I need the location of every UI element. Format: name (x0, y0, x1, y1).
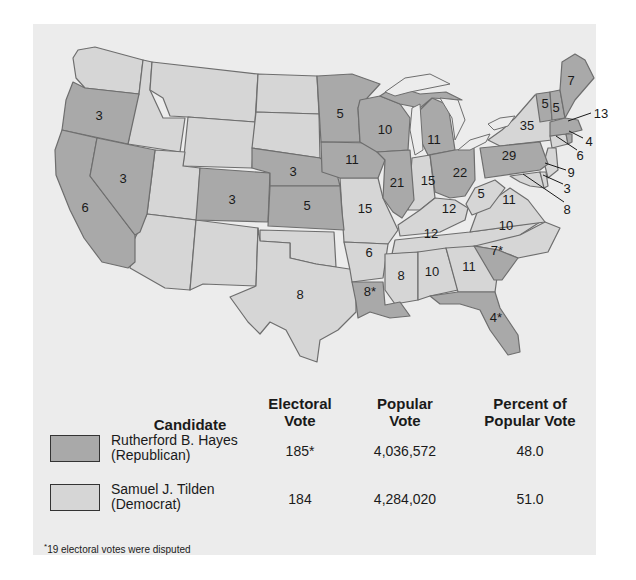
label-new-jersey: 9 (567, 165, 574, 180)
label-south-carolina: 7* (491, 243, 503, 258)
label-maryland: 8 (563, 202, 570, 217)
label-rhode-island: 4 (585, 134, 592, 149)
label-west-virginia: 5 (477, 186, 484, 201)
label-michigan: 11 (427, 132, 441, 147)
label-alabama: 10 (425, 264, 439, 279)
label-arkansas: 6 (365, 245, 372, 260)
state-wyoming (183, 117, 255, 168)
label-connecticut: 6 (576, 148, 583, 163)
label-florida: 4* (490, 310, 502, 325)
label-north-carolina: 10 (499, 218, 513, 233)
label-iowa: 11 (345, 152, 359, 167)
state-dakota-north (256, 74, 319, 114)
label-wisconsin: 10 (378, 122, 392, 137)
label-tennessee: 12 (424, 226, 438, 241)
label-nebraska: 3 (289, 164, 296, 179)
label-ohio: 22 (453, 165, 467, 180)
label-maine: 7 (567, 73, 574, 88)
state-massachusetts (550, 118, 582, 136)
label-california: 6 (81, 200, 88, 215)
state-montana (150, 62, 258, 122)
us-electoral-map: 3 6 3 3 3 5 8 5 11 15 6 8* 10 21 11 15 2… (0, 0, 636, 580)
label-massachusetts: 13 (594, 106, 608, 121)
label-nevada: 3 (119, 171, 126, 186)
label-new-york: 35 (520, 118, 534, 133)
label-minnesota: 5 (336, 106, 343, 121)
label-texas: 8 (296, 287, 303, 302)
label-pennsylvania: 29 (502, 148, 516, 163)
label-kentucky: 12 (442, 201, 456, 216)
label-louisiana: 8* (364, 284, 376, 299)
state-florida (430, 292, 520, 355)
label-colorado: 3 (228, 192, 235, 207)
label-delaware: 3 (563, 181, 570, 196)
label-virginia: 11 (502, 192, 516, 207)
state-new-mexico (190, 220, 258, 290)
label-kansas: 5 (303, 198, 310, 213)
label-illinois: 21 (390, 175, 404, 190)
label-new-hampshire: 5 (552, 100, 559, 115)
label-georgia: 11 (462, 259, 476, 274)
label-missouri: 15 (358, 201, 372, 216)
label-indiana: 15 (421, 173, 435, 188)
label-oregon: 3 (95, 108, 102, 123)
state-maine (560, 54, 594, 118)
label-vermont: 5 (541, 96, 548, 111)
label-mississippi: 8 (397, 268, 404, 283)
